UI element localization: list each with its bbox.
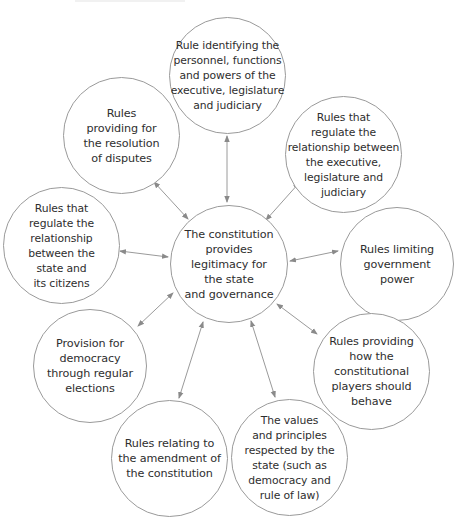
arrow-center-bottom-center-right bbox=[251, 321, 275, 397]
node-upper-left: Rules providing for the resolution of di… bbox=[63, 77, 180, 194]
center-node: The constitution provides legitimacy for… bbox=[170, 205, 288, 323]
arrow-center-upper-left bbox=[154, 182, 188, 219]
node-top-right: Rules that regulate the relationship bet… bbox=[285, 96, 402, 213]
node-top: Rule identifying the personnel, function… bbox=[169, 17, 286, 134]
arrow-center-bottom-center-left bbox=[179, 322, 203, 398]
node-left-label: Rules that regulate the relationship bet… bbox=[28, 201, 95, 291]
arrow-center-left-lower bbox=[138, 293, 173, 326]
node-bottom-center-right: The values and principles respected by t… bbox=[231, 399, 348, 516]
center-node-label: The constitution provides legitimacy for… bbox=[184, 227, 273, 302]
arrow-center-bottom-right bbox=[277, 304, 317, 334]
node-right: Rules limiting government power bbox=[340, 207, 454, 321]
arrow-center-right bbox=[290, 251, 338, 261]
node-left: Rules that regulate the relationship bet… bbox=[3, 187, 120, 304]
node-bottom-right-label: Rules providing how the constitutional p… bbox=[329, 334, 414, 409]
node-bottom-center-left: Rules relating to the amendment of the c… bbox=[111, 400, 228, 517]
node-upper-left-label: Rules providing for the resolution of di… bbox=[83, 106, 159, 166]
node-bottom-center-left-label: Rules relating to the amendment of the c… bbox=[118, 436, 221, 481]
node-left-lower-label: Provision for democracy through regular … bbox=[47, 336, 133, 396]
node-bottom-center-right-label: The values and principles respected by t… bbox=[245, 413, 335, 503]
arrow-center-left bbox=[120, 251, 168, 257]
node-left-lower: Provision for democracy through regular … bbox=[33, 309, 147, 423]
node-right-label: Rules limiting government power bbox=[360, 242, 434, 287]
node-top-label: Rule identifying the personnel, function… bbox=[171, 38, 285, 113]
node-top-right-label: Rules that regulate the relationship bet… bbox=[288, 110, 400, 200]
